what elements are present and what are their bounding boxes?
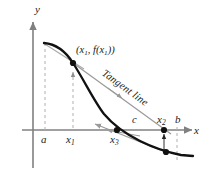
tick-label-x3: x3: [110, 134, 119, 146]
point-x2-on-axis: [161, 127, 167, 133]
point-x1-fx1: [70, 60, 76, 66]
tick-label-x1-subscript: 1: [71, 138, 75, 147]
point-annotation-x1-fx1: (x1, f(x1)): [76, 45, 115, 57]
y-axis-label: y: [35, 4, 40, 15]
tick-label-a: a: [41, 134, 47, 145]
x-axis-label: x: [194, 125, 199, 136]
tick-label-x2-subscript: 2: [162, 118, 166, 127]
plotted-points-group: [70, 60, 169, 155]
tick-label-b: b: [175, 114, 181, 125]
tick-label-x1: x1: [66, 134, 75, 146]
tick-label-x3-subscript: 3: [115, 138, 119, 147]
annotation-close-parens: )): [108, 44, 115, 55]
newtons-method-diagram: y x a x1 x3 x2 b c (x1, f(x1)) Tangent l…: [0, 0, 209, 174]
tick-label-x2: x2: [157, 114, 166, 126]
point-x2-on-curve: [163, 149, 169, 155]
diagram-canvas: [0, 0, 209, 174]
tick-label-c: c: [132, 115, 137, 126]
